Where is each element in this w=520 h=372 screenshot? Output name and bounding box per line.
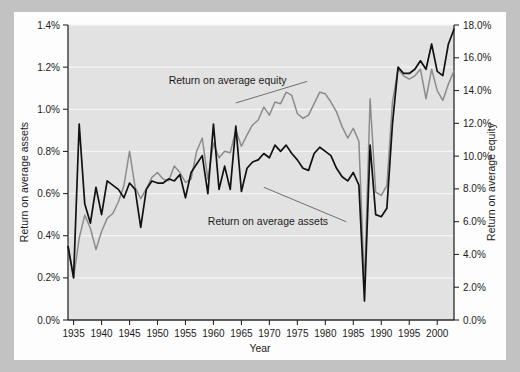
y2-axis-title: Return on average equity bbox=[485, 122, 497, 241]
screenshot-page: 0.0%0.2%0.4%0.6%0.8%1.0%1.2%1.4% 0.0%2.0… bbox=[0, 0, 520, 372]
y-axis-ticks-group: 0.0%0.2%0.4%0.6%0.8%1.0%1.2%1.4% bbox=[37, 20, 68, 326]
x-axis-tick-label: 1985 bbox=[342, 328, 365, 339]
y2-axis-tick-label: 6.0% bbox=[463, 216, 486, 227]
x-axis-tick-label: 1950 bbox=[146, 328, 169, 339]
x-axis-tick-label: 1945 bbox=[118, 328, 141, 339]
y2-axis-tick-label: 14.0% bbox=[463, 85, 491, 96]
y-axis-tick-label: 0.2% bbox=[37, 272, 60, 283]
annotation-label: Return on average equity bbox=[169, 74, 288, 86]
y2-axis-tick-label: 18.0% bbox=[463, 20, 491, 31]
x-axis-tick-label: 1955 bbox=[174, 328, 197, 339]
y2-axis-tick-label: 4.0% bbox=[463, 249, 486, 260]
y2-axis-tick-label: 2.0% bbox=[463, 282, 486, 293]
y-axis-tick-label: 0.6% bbox=[37, 188, 60, 199]
y-axis-tick-label: 0.8% bbox=[37, 146, 60, 157]
chart-figure: 0.0%0.2%0.4%0.6%0.8%1.0%1.2%1.4% 0.0%2.0… bbox=[14, 12, 506, 360]
x-axis-tick-label: 1940 bbox=[90, 328, 113, 339]
y-axis-tick-label: 1.4% bbox=[37, 20, 60, 31]
y2-axis-tick-label: 16.0% bbox=[463, 52, 491, 63]
x-axis-tick-label: 1970 bbox=[258, 328, 281, 339]
y-axis-tick-label: 0.0% bbox=[37, 315, 60, 326]
y-axis-tick-label: 0.4% bbox=[37, 230, 60, 241]
x-axis-tick-label: 1980 bbox=[314, 328, 337, 339]
x-axis-ticks-group: 1935194019451950195519601965197019751980… bbox=[62, 320, 448, 339]
y-axis-tick-label: 1.0% bbox=[37, 104, 60, 115]
y-axis-title: Return on average assets bbox=[18, 122, 30, 242]
y-axis-tick-label: 1.2% bbox=[37, 62, 60, 73]
y2-axis-tick-label: 8.0% bbox=[463, 183, 486, 194]
return-on-assets-equity-line-chart: 0.0%0.2%0.4%0.6%0.8%1.0%1.2%1.4% 0.0%2.0… bbox=[14, 12, 506, 360]
x-axis-title: Year bbox=[249, 342, 271, 354]
y2-axis-tick-label: 0.0% bbox=[463, 315, 486, 326]
x-axis-tick-label: 1995 bbox=[398, 328, 421, 339]
x-axis-tick-label: 1965 bbox=[230, 328, 253, 339]
x-axis-tick-label: 1960 bbox=[202, 328, 225, 339]
x-axis-tick-label: 1975 bbox=[286, 328, 309, 339]
figure-paper: 0.0%0.2%0.4%0.6%0.8%1.0%1.2%1.4% 0.0%2.0… bbox=[14, 12, 506, 360]
x-axis-tick-label: 1935 bbox=[62, 328, 85, 339]
annotation-label: Return on average assets bbox=[208, 215, 328, 227]
x-axis-tick-label: 1990 bbox=[370, 328, 393, 339]
x-axis-tick-label: 2000 bbox=[426, 328, 449, 339]
